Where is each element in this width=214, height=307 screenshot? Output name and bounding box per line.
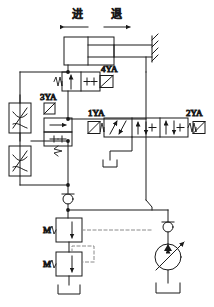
- relief-lower-body: [56, 252, 82, 276]
- label-1ya: 1YA: [88, 108, 105, 118]
- valve-4ya-solenoid-slash: [100, 76, 113, 88]
- label-4ya: 4YA: [101, 64, 118, 74]
- schematic-canvas: 进 退: [0, 0, 214, 307]
- label-2ya: 2YA: [186, 108, 203, 118]
- dcv-tank-symbol: [103, 160, 117, 167]
- double-acting-cylinder: [64, 34, 158, 65]
- throttle-valve-upper[interactable]: [9, 95, 31, 141]
- dcv-tank-line: [110, 137, 132, 160]
- solenoid-valve-3ya[interactable]: 3YA: [40, 92, 72, 156]
- label-advance: 进: [72, 8, 83, 21]
- check-valve-trunk: [62, 194, 74, 210]
- dcv-position-right: [166, 121, 184, 134]
- valve-3ya-spring: [54, 146, 62, 156]
- dcv-position-left: [110, 121, 126, 134]
- mount-hatching: [152, 34, 158, 61]
- label-3ya: 3YA: [40, 92, 57, 102]
- direction-indicators: 进 退: [64, 8, 130, 27]
- relief-valve-upper[interactable]: M: [43, 218, 152, 252]
- relief-valve-lower[interactable]: M: [43, 246, 94, 294]
- cylinder-port-lines: [66, 57, 146, 200]
- label-retract: 退: [111, 8, 122, 21]
- relief-upper-body: [56, 218, 82, 242]
- pump-assembly: [155, 210, 184, 293]
- pipe-bend-rodend: [146, 200, 152, 210]
- valve-4ya-spring: [54, 77, 62, 86]
- valve-3ya-solenoid-slash: [44, 103, 55, 114]
- label-m-upper: M: [43, 225, 51, 235]
- check-valve-trunk-ball: [63, 194, 73, 204]
- dcv-position-center: [138, 122, 156, 134]
- tank-symbol-left: [58, 285, 80, 294]
- solenoid-valve-4ya[interactable]: 4YA: [54, 64, 118, 91]
- dcv-spring-right: [188, 123, 196, 132]
- hydraulic-schematic-svg: 进 退: [0, 0, 214, 307]
- label-m-lower: M: [43, 259, 51, 269]
- cylinder-barrel: [64, 37, 114, 65]
- check-valve-pump-ball: [163, 222, 173, 232]
- tank-symbol-right: [156, 283, 180, 293]
- relief-lower-drain-loop: [72, 246, 94, 262]
